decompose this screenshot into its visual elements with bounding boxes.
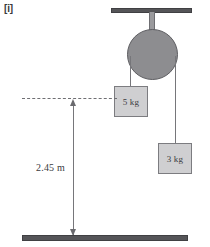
string-left [130,56,131,87]
pulley-diagram: [i] 5 kg 3 kg 2.45 m [0,0,210,247]
string-right [175,56,176,144]
height-dimension-line [73,101,74,236]
mass-block-left-label: 5 kg [123,97,140,107]
mass-block-left: 5 kg [114,86,148,117]
pulley-wheel [127,29,178,80]
mass-block-right: 3 kg [158,143,192,174]
part-label: [i] [4,3,13,15]
ground-bar [22,235,188,241]
dimension-arrow-up-icon [70,99,76,106]
mass-block-right-label: 3 kg [167,154,184,164]
height-dimension-label: 2.45 m [36,162,65,173]
